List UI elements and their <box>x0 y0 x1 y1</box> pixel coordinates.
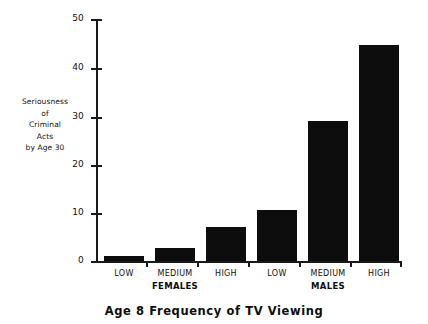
y-tick-label-0: 0 <box>50 256 84 265</box>
y-tick-20 <box>91 165 102 167</box>
x-tick-2 <box>197 261 199 267</box>
y-axis-title-line-4: Acts <box>8 131 82 143</box>
x-group-label-females: FEMALES <box>125 281 225 291</box>
x-tick-3 <box>248 261 250 267</box>
y-tick-label-10: 10 <box>50 208 84 217</box>
bar-females-medium <box>155 248 195 261</box>
y-tick-label-30: 30 <box>50 112 84 121</box>
x-tick-5 <box>350 261 352 267</box>
bar-females-high <box>206 227 246 261</box>
x-label-females-high: HIGH <box>201 269 251 279</box>
bar-males-high <box>359 45 399 261</box>
y-axis-title-line-5: by Age 30 <box>8 142 82 154</box>
y-tick-30 <box>91 117 102 119</box>
x-group-label-males: MALES <box>278 281 378 291</box>
y-axis-line <box>96 19 98 263</box>
y-axis-title: Seriousness of Criminal Acts by Age 30 <box>8 96 82 154</box>
y-tick-label-40: 40 <box>50 63 84 72</box>
x-label-males-low: LOW <box>252 269 302 279</box>
y-tick-label-20: 20 <box>50 160 84 169</box>
bar-females-low <box>104 256 144 261</box>
bar-chart-figure: Seriousness of Criminal Acts by Age 30 5… <box>0 0 428 324</box>
x-label-females-low: LOW <box>99 269 149 279</box>
chart-title: Age 8 Frequency of TV Viewing <box>0 304 428 318</box>
y-axis-title-line-1: Seriousness <box>8 96 82 108</box>
x-tick-1 <box>146 261 148 267</box>
x-tick-6 <box>400 261 402 267</box>
y-tick-50 <box>91 19 102 21</box>
bar-males-low <box>257 210 297 261</box>
y-tick-40 <box>91 68 102 70</box>
x-label-males-high: HIGH <box>354 269 404 279</box>
x-tick-4 <box>299 261 301 267</box>
y-tick-10 <box>91 213 102 215</box>
bar-males-medium <box>308 121 348 261</box>
x-label-females-medium: MEDIUM <box>150 269 200 279</box>
y-tick-label-50: 50 <box>50 14 84 23</box>
x-label-males-medium: MEDIUM <box>303 269 353 279</box>
